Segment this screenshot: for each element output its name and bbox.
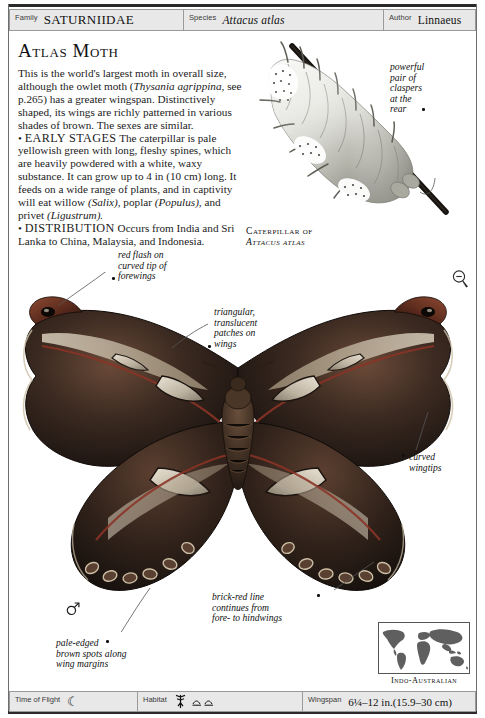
paragraph-intro: This is the world's largest moth in over… (18, 67, 244, 132)
annotation-red-flash: red flash on curved tip of forewings (118, 250, 218, 282)
annotation-translucent-patches: triangular, translucent patches on wings (214, 307, 314, 349)
caterpillar-caption-line2: Attacus atlas (246, 236, 305, 247)
left-rule (8, 4, 9, 714)
header-field-family: Family SATURNIIDAE (10, 10, 183, 30)
annotation-curved-wingtips: curved wingtips (409, 452, 479, 473)
annotation-dot-curved-wingtips (402, 454, 405, 457)
header-label-species: Species (189, 13, 216, 22)
page-title: Atlas Moth (18, 40, 244, 62)
paragraph-early-stages: • EARLY STAGES The caterpillar is pale y… (18, 132, 244, 222)
annotation-dot-translucent (208, 345, 211, 348)
annotation-dot-red-flash (112, 277, 115, 280)
header-label-family: Family (15, 13, 38, 22)
footer-value-wingspan: 6¼–12 in.(15.9–30 cm) (348, 696, 452, 708)
early-stages-italic-ligustrum: (Ligustrum). (47, 209, 103, 221)
footer-field-habitat: Habitat (137, 692, 302, 711)
footer-field-time-of-flight: Time of Flight ☾ (10, 692, 137, 711)
male-symbol-icon (66, 600, 80, 616)
annotation-pale-edged-spots: pale-edged brown spots along wing margin… (56, 638, 186, 670)
moon-icon: ☾ (67, 695, 79, 708)
specimen-footer: Time of Flight ☾ Habitat Wingspan (9, 691, 476, 712)
footer-field-wingspan: Wingspan 6¼–12 in.(15.9–30 cm) (302, 692, 475, 711)
annotation-powerful-claspers: powerful pair of claspers at the rear (390, 62, 470, 115)
distribution-region-label: Indo-Australian (372, 676, 476, 685)
intro-italic-thysania: Thysania agrippina, (134, 80, 225, 92)
header-value-species: Attacus atlas (222, 14, 284, 26)
footer-label-wingspan: Wingspan (308, 695, 341, 704)
caterpillar-caption: Caterpillar of Attacus atlas (246, 225, 396, 248)
annotation-dot-pale-spots (106, 640, 109, 643)
right-rule (476, 4, 477, 714)
annotation-brick-red-line: brick-red line continues from fore- to h… (212, 592, 332, 624)
header-label-author: Author (389, 13, 412, 22)
header-field-author: Author Linnaeus (383, 10, 475, 30)
top-rule (8, 4, 477, 7)
bullet-distribution: • (18, 222, 22, 234)
left-tip-eyespot (41, 307, 55, 317)
early-stages-italic-salix: (Salix), (88, 196, 121, 208)
early-stages-italic-populus: (Populus), (155, 196, 202, 208)
tree-icon (174, 694, 187, 709)
distribution-map (378, 622, 470, 674)
scrub-icon (192, 696, 222, 708)
right-tip-eyespot (421, 307, 435, 317)
article-text-column: Atlas Moth This is the world's largest m… (18, 40, 244, 248)
footer-label-time-of-flight: Time of Flight (15, 695, 60, 704)
header-field-species: Species Attacus atlas (183, 10, 383, 30)
world-map-graphic (379, 623, 469, 673)
taxonomy-header: Family SATURNIIDAE Species Attacus atlas… (9, 9, 476, 31)
paragraph-distribution: • DISTRIBUTION Occurs from India and Sri… (18, 222, 244, 248)
header-value-family: SATURNIIDAE (44, 12, 134, 28)
field-guide-page: Family SATURNIIDAE Species Attacus atlas… (0, 0, 485, 718)
caterpillar-caption-line1: Caterpillar of (246, 225, 313, 236)
annotation-dot-claspers (422, 108, 425, 111)
footer-label-habitat: Habitat (143, 695, 167, 704)
label-early-stages: EARLY STAGES (25, 131, 117, 145)
header-value-author: Linnaeus (418, 14, 462, 26)
annotation-dot-brick-red (317, 594, 320, 597)
bullet-early-stages: • (18, 132, 22, 144)
early-stages-text-b: poplar (121, 196, 155, 208)
label-distribution: DISTRIBUTION (25, 221, 115, 235)
left-wings (23, 297, 238, 591)
